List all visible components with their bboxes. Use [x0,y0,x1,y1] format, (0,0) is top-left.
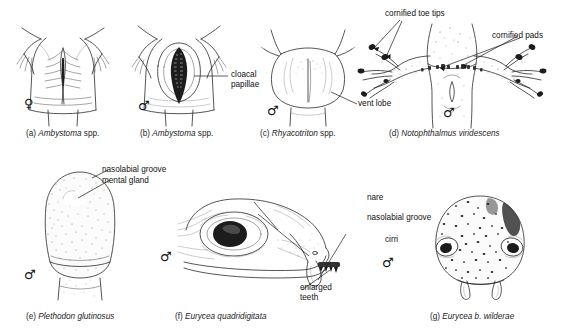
sex-symbol-male-e: ♂ [24,268,36,281]
label-mental-gland: mental gland [102,176,149,186]
eurycea-wilderae-head-frontal-drawing [434,196,525,299]
label-cornified-pads: cornified pads [492,31,543,41]
figure-plate: ♀ (a) Ambystoma spp. [0,0,566,335]
label-enlarged-teeth-line2: teeth [300,293,318,302]
caption-f-tag: (f) [175,312,183,321]
label-cirri: cirri [385,235,398,245]
eurycea-quadridigitata-head-lateral-drawing [178,199,346,290]
caption-g-tag: (g) [430,312,440,321]
panel-g: ♂ [418,190,544,302]
label-enlarged-teeth: enlarged teeth [300,283,356,302]
sex-symbol-male-b: ♂ [138,99,150,112]
caption-c-suffix: spp. [318,129,336,138]
caption-b-species: Ambystoma [152,129,195,138]
panel-d: ♂ [340,12,566,128]
caption-b-suffix: spp. [196,129,214,138]
panel-e-illustration [30,168,130,300]
caption-e: (e) Plethodon glutinosus [26,312,114,322]
sex-symbol-male-g: ♂ [382,256,394,269]
caption-d: (d) Notophthalmus viridescens [389,129,500,139]
label-nasolabial-groove-e: nasolabial groove [102,165,166,175]
body-texture [434,28,471,117]
caption-a-species: Ambystoma [38,129,81,138]
sex-symbol-female-a: ♀ [24,97,34,110]
panel-e: ♂ [30,168,130,300]
panel-g-illustration [418,190,544,302]
sex-symbol-male-d: ♂ [443,106,455,119]
caption-e-species: Plethodon glutinosus [38,312,114,321]
caption-d-tag: (d) [389,129,399,138]
caption-f: (f) Eurycea quadridigitata [175,312,267,322]
cirri-leader [318,234,346,280]
label-cornified-toe-tips: cornified toe tips [385,9,445,19]
enlarged-teeth-marks [318,262,340,273]
left-limb-texture [370,56,421,83]
caption-a: (a) Ambystoma spp. [26,129,99,139]
sex-symbol-male-c: ♂ [267,104,279,117]
nare-opening [313,251,318,254]
right-limb-texture [484,56,535,83]
sex-symbol-male-f: ♂ [160,250,172,263]
caption-a-suffix: spp. [82,129,100,138]
caption-a-tag: (a) [26,129,36,138]
caption-c-tag: (c) [260,129,270,138]
label-nare: nare [367,193,383,203]
caption-f-species: Eurycea quadridigitata [185,312,266,321]
panel-b: ♂ [124,14,234,126]
caption-b: (b) Ambystoma spp. [140,129,213,139]
caption-c: (c) Rhyacotriton spp. [260,129,336,139]
panel-a: ♀ [8,14,118,126]
plethodon-head-ventral-drawing [45,170,115,300]
caption-g-species: Eurycea b. wilderae [442,312,514,321]
vent-texture [296,60,323,74]
caption-b-tag: (b) [140,129,150,138]
label-enlarged-teeth-line1: enlarged [300,283,332,292]
caption-g: (g) Eurycea b. wilderae [430,312,514,322]
caption-d-species: Notophthalmus viridescens [401,129,499,138]
caption-e-tag: (e) [26,312,36,321]
ambystoma-female-cloaca-drawing [17,28,109,126]
caption-c-species: Rhyacotriton [272,129,318,138]
